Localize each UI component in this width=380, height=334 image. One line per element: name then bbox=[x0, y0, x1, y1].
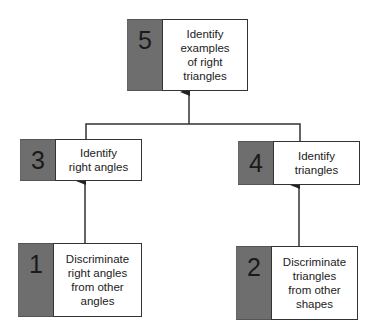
node-1-label: Discriminate right angles from other ang… bbox=[53, 243, 142, 317]
node-4: 4 Identify triangles bbox=[238, 141, 360, 185]
node-3-label: Identify right angles bbox=[55, 139, 142, 181]
node-3: 3 Identify right angles bbox=[20, 139, 142, 181]
node-4-number: 4 bbox=[238, 141, 273, 185]
node-2: 2 Discriminate triangles from other shap… bbox=[236, 246, 358, 320]
node-1: 1 Discriminate right angles from other a… bbox=[18, 243, 142, 317]
node-5-label: Identify examples of right triangles bbox=[162, 19, 248, 91]
node-2-label: Discriminate triangles from other shapes bbox=[271, 246, 358, 320]
node-3-number: 3 bbox=[20, 139, 55, 181]
node-2-number: 2 bbox=[236, 246, 271, 320]
node-5-number: 5 bbox=[127, 19, 162, 91]
node-5: 5 Identify examples of right triangles bbox=[127, 19, 248, 91]
node-4-label: Identify triangles bbox=[273, 141, 360, 185]
node-1-number: 1 bbox=[18, 243, 53, 317]
